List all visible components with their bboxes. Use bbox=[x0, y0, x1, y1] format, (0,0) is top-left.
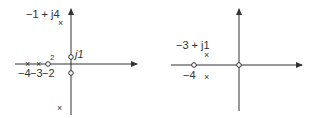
complex-pole-label: −1 + j4 bbox=[26, 8, 60, 20]
zero-marker bbox=[69, 71, 74, 76]
zero-marker bbox=[192, 63, 197, 68]
tick-label-minus-4: −4 bbox=[18, 67, 31, 79]
tick-label-minus-3: −3 bbox=[30, 67, 43, 79]
pole-zero-figure: −1 + j4 × × × × 2 −4 −3 −2 j1 −3 + j1 × … bbox=[0, 0, 314, 118]
left-pole-zero-plot: −1 + j4 × × × × 2 −4 −3 −2 j1 bbox=[15, 8, 137, 115]
multiplicity-label: 2 bbox=[50, 53, 55, 62]
tick-label-minus-2: −2 bbox=[42, 67, 55, 79]
pole-marker: × bbox=[204, 50, 209, 60]
right-pole-zero-plot: −3 + j1 × × −4 bbox=[171, 9, 302, 111]
pole-marker: × bbox=[57, 103, 62, 113]
zero-marker bbox=[46, 62, 51, 67]
zero-marker-origin bbox=[237, 63, 242, 68]
pole-marker: × bbox=[204, 72, 209, 82]
pole-marker: × bbox=[58, 18, 63, 28]
imag-zero-label: j1 bbox=[73, 48, 84, 60]
zero-marker bbox=[69, 55, 74, 60]
tick-label-minus-4: −4 bbox=[183, 69, 196, 81]
